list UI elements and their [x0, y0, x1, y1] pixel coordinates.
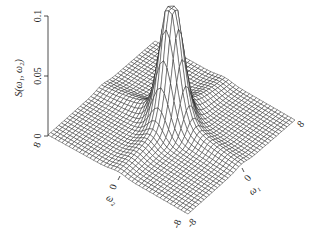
- omega2-tick-neg8: -8: [170, 218, 183, 230]
- z-tick-0-1: 0.1: [32, 10, 43, 23]
- z-axis: 0 0.05 0.1 S(ω₁, ω₂): [13, 10, 48, 139]
- omega2-tick-0: 0: [107, 183, 119, 191]
- omega1-tick-8: 8: [294, 118, 306, 129]
- omega1-tick-0: 0: [241, 172, 253, 183]
- omega2-axis-label: ω₂: [104, 192, 119, 207]
- omega1-tick-neg8: -8: [184, 216, 198, 229]
- omega2-tick-8: 8: [31, 141, 43, 149]
- z-tick-0: 0: [32, 134, 43, 139]
- omega1-axis-label: ω₁: [246, 182, 261, 197]
- surface-plot: 0 0.05 0.1 S(ω₁, ω₂) 8 0 -8 ω₂ -8 0 8 ω₁: [0, 0, 334, 238]
- z-tick-0-05: 0.05: [32, 67, 43, 85]
- z-axis-label: S(ω₁, ω₂): [13, 58, 25, 96]
- surface-mesh: [48, 6, 295, 214]
